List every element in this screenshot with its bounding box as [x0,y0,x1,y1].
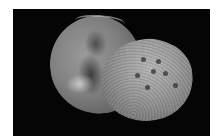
shell-pit [173,83,178,88]
shell-pit [141,57,146,62]
shell-pit [145,85,150,90]
shell-pit [163,71,168,76]
shell-pit [156,59,161,64]
photo-frame [13,9,210,136]
shell-pit [135,73,140,78]
shell-pit [151,69,156,74]
